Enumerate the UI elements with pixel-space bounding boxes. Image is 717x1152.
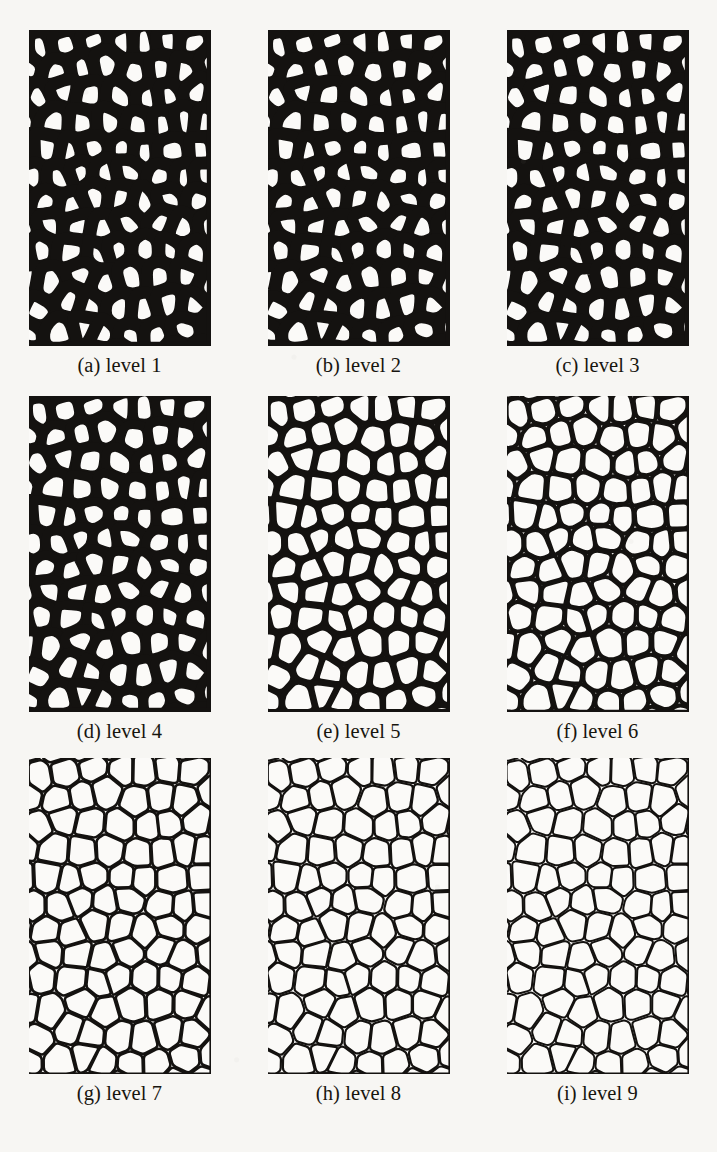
panel-caption-i: (i) level 9 (557, 1083, 638, 1104)
figure-row: (d) level 4 (e) level 5 (f) level 6 (0, 396, 717, 742)
figure-panel-h: (h) level 8 (239, 758, 478, 1104)
microstructure-image-b (268, 30, 450, 346)
microstructure-image-g (29, 758, 211, 1074)
figure-row: (a) level 1 (b) level 2 (c) level 3 (0, 30, 717, 376)
figure-grid: (a) level 1 (b) level 2 (c) level 3 (d) … (0, 0, 717, 1152)
figure-row: (g) level 7 (h) level 8 (i) level 9 (0, 758, 717, 1104)
microstructure-image-f (507, 396, 689, 712)
figure-panel-f: (f) level 6 (478, 396, 717, 742)
figure-panel-i: (i) level 9 (478, 758, 717, 1104)
figure-panel-c: (c) level 3 (478, 30, 717, 376)
microstructure-image-h (268, 758, 450, 1074)
microstructure-image-c (507, 30, 689, 346)
microstructure-image-d (29, 396, 211, 712)
figure-panel-g: (g) level 7 (0, 758, 239, 1104)
panel-caption-f: (f) level 6 (557, 721, 639, 742)
figure-panel-e: (e) level 5 (239, 396, 478, 742)
microstructure-image-e (268, 396, 450, 712)
microstructure-image-a (29, 30, 211, 346)
panel-caption-c: (c) level 3 (555, 355, 639, 376)
figure-panel-a: (a) level 1 (0, 30, 239, 376)
figure-panel-d: (d) level 4 (0, 396, 239, 742)
panel-caption-b: (b) level 2 (316, 355, 401, 376)
microstructure-image-i (507, 758, 689, 1074)
panel-caption-h: (h) level 8 (316, 1083, 401, 1104)
panel-caption-d: (d) level 4 (77, 721, 162, 742)
panel-caption-g: (g) level 7 (77, 1083, 162, 1104)
panel-caption-a: (a) level 1 (77, 355, 161, 376)
panel-caption-e: (e) level 5 (316, 721, 400, 742)
figure-panel-b: (b) level 2 (239, 30, 478, 376)
